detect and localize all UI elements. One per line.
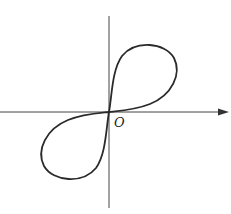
origin-label: O (114, 115, 125, 130)
curve-loop-upper-right (109, 45, 177, 112)
curve-loop-lower-left (41, 112, 109, 179)
x-axis-arrow-icon (218, 109, 229, 116)
diagram-canvas (0, 0, 231, 214)
